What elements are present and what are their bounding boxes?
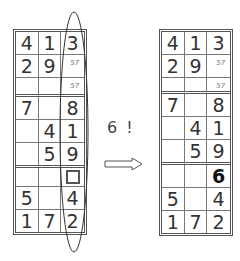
sudoku-cell	[185, 78, 208, 94]
sudoku-cell	[185, 165, 208, 188]
candidate-notes: 57	[216, 59, 225, 67]
sudoku-cell: 9	[61, 143, 84, 168]
sudoku-cell	[162, 78, 185, 94]
target-cell-box-icon	[66, 170, 80, 184]
sudoku-cell: 4	[39, 120, 62, 143]
grid-cells-after: 413295757784159654172	[162, 32, 230, 233]
sudoku-cell: 5	[39, 143, 62, 168]
sudoku-cell	[39, 97, 62, 120]
sudoku-cell: 4	[61, 187, 84, 210]
sudoku-cell	[185, 188, 208, 211]
sudoku-cell	[185, 94, 208, 117]
sudoku-cell: 6	[207, 165, 230, 188]
sudoku-cell: 8	[207, 94, 230, 117]
sudoku-cell: 4	[207, 188, 230, 211]
sudoku-cell: 4	[16, 32, 39, 55]
sudoku-cell	[39, 187, 62, 210]
sudoku-cell	[162, 140, 185, 165]
sudoku-cell: 1	[39, 32, 62, 55]
grid-cells-before: 41329575778415954172	[16, 32, 84, 232]
sudoku-cell: 2	[207, 211, 230, 233]
candidate-notes: 57	[70, 82, 79, 90]
sudoku-cell: 4	[162, 32, 185, 55]
right-arrow-icon	[104, 157, 144, 171]
sudoku-grid-after: 413295757784159654172	[159, 29, 233, 236]
sudoku-cell: 9	[39, 55, 62, 78]
sudoku-cell: 5	[185, 140, 208, 165]
sudoku-grid-before: 41329575778415954172	[13, 29, 87, 235]
sudoku-cell: 2	[162, 55, 185, 78]
sudoku-cell: 2	[61, 210, 84, 232]
sudoku-cell: 1	[185, 32, 208, 55]
sudoku-cell	[39, 78, 62, 97]
sudoku-cell: 7	[39, 210, 62, 232]
sudoku-cell: 57	[61, 78, 84, 97]
sudoku-cell: 7	[16, 97, 39, 120]
sudoku-cell	[61, 168, 84, 187]
sudoku-cell: 7	[162, 94, 185, 117]
sudoku-cell: 9	[207, 140, 230, 165]
sudoku-cell	[162, 165, 185, 188]
sudoku-cell: 1	[162, 211, 185, 233]
sudoku-cell: 2	[16, 55, 39, 78]
sudoku-cell: 3	[61, 32, 84, 55]
sudoku-cell: 5	[16, 187, 39, 210]
sudoku-cell: 1	[207, 117, 230, 140]
candidate-notes: 57	[216, 82, 225, 90]
sudoku-cell	[16, 168, 39, 187]
candidate-notes: 57	[70, 59, 79, 67]
annotation-text: 6 !	[107, 118, 135, 137]
sudoku-cell	[16, 120, 39, 143]
sudoku-cell	[16, 78, 39, 97]
sudoku-cell: 1	[61, 120, 84, 143]
sudoku-cell: 1	[16, 210, 39, 232]
sudoku-cell: 4	[185, 117, 208, 140]
sudoku-cell: 57	[207, 55, 230, 78]
sudoku-cell	[16, 143, 39, 168]
sudoku-cell: 5	[162, 188, 185, 211]
sudoku-cell: 57	[61, 55, 84, 78]
sudoku-cell: 7	[185, 211, 208, 233]
sudoku-cell	[39, 168, 62, 187]
sudoku-cell: 8	[61, 97, 84, 120]
sudoku-cell: 3	[207, 32, 230, 55]
sudoku-cell: 57	[207, 78, 230, 94]
sudoku-cell	[162, 117, 185, 140]
sudoku-cell: 9	[185, 55, 208, 78]
